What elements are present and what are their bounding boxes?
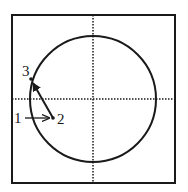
point-3-dot: [29, 77, 33, 81]
arrow-2-to-3: [33, 83, 53, 118]
diagram-canvas: 1 2 3: [0, 0, 188, 192]
point-2-dot: [51, 116, 55, 120]
label-3: 3: [22, 63, 30, 79]
label-2: 2: [57, 111, 65, 127]
label-1: 1: [14, 110, 22, 126]
